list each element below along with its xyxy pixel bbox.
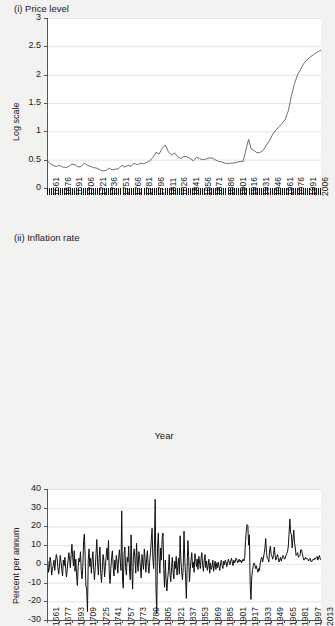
x-tick-label: 1886	[226, 177, 236, 196]
y-tick-mark	[44, 18, 47, 19]
x-tick-label: 1961	[285, 177, 295, 196]
price-level-plot-area	[47, 18, 321, 188]
x-tick-label: 1773	[138, 607, 148, 626]
x-tick-label: 1661	[51, 177, 61, 196]
x-tick-label: 1933	[263, 607, 273, 626]
y-tick-mark	[44, 545, 47, 546]
y-tick-mark	[44, 508, 47, 509]
y-tick-mark	[44, 103, 47, 104]
x-tick-mark	[47, 620, 48, 623]
x-tick-label: 1751	[121, 177, 131, 196]
x-tick-label: 1709	[88, 607, 98, 626]
inflation-rate-panel: (ii) Inflation rate Percent per annum -3…	[0, 228, 328, 447]
y-tick-mark	[44, 564, 47, 565]
price-level-gridlines	[47, 19, 321, 189]
price-level-chart-svg	[47, 18, 321, 188]
inflation-rate-line-series	[47, 499, 321, 613]
y-tick-mark	[44, 160, 47, 161]
x-tick-label: 1901	[238, 607, 248, 626]
x-tick-label: 1885	[225, 607, 235, 626]
y-tick-mark	[44, 131, 47, 132]
inflation-rate-x-axis-title: Year	[0, 430, 328, 441]
price-level-panel: (i) Price level Log scale 00.511.522.53 …	[0, 0, 328, 228]
y-tick-label: -20	[8, 595, 41, 605]
y-tick-label: 1	[8, 125, 41, 135]
x-tick-label: 1853	[200, 607, 210, 626]
x-tick-label: 1946	[273, 177, 283, 196]
inflation-rate-title: (ii) Inflation rate	[14, 232, 79, 243]
y-tick-mark	[44, 46, 47, 47]
x-tick-label: 1841	[191, 177, 201, 196]
x-tick-label: 1917	[250, 607, 260, 626]
x-tick-label: 1869	[213, 607, 223, 626]
x-tick-label: 1805	[163, 607, 173, 626]
x-tick-label: 1949	[275, 607, 285, 626]
y-tick-label: 40	[8, 483, 41, 493]
x-tick-label: 1736	[109, 177, 119, 196]
inflation-rate-y-axis-line	[47, 489, 48, 621]
x-tick-label: 1677	[63, 607, 73, 626]
y-tick-label: 30	[8, 502, 41, 512]
x-tick-label: 1811	[168, 178, 178, 196]
x-tick-label: 1981	[300, 607, 310, 626]
y-tick-label: 2	[8, 69, 41, 79]
y-tick-label: 0	[8, 558, 41, 568]
y-tick-label: 2.5	[8, 40, 41, 50]
y-tick-mark	[44, 526, 47, 527]
price-level-line-series	[47, 50, 321, 171]
x-tick-label: 1721	[98, 177, 108, 196]
x-tick-label: 1931	[261, 177, 271, 196]
x-tick-label: 1691	[74, 177, 84, 196]
x-tick-label: 1766	[133, 177, 143, 196]
y-tick-mark	[44, 601, 47, 602]
y-tick-mark	[44, 489, 47, 490]
y-tick-label: 3	[8, 12, 41, 22]
x-tick-label: 2013	[325, 607, 335, 626]
y-tick-label: -10	[8, 577, 41, 587]
x-tick-label: 1741	[113, 607, 123, 626]
x-tick-label: 1976	[296, 177, 306, 196]
x-tick-label: 1965	[288, 607, 298, 626]
y-tick-label: -30	[8, 614, 41, 624]
price-level-y-axis-line	[47, 18, 48, 189]
x-tick-label: 1706	[86, 177, 96, 196]
x-tick-label: 1997	[313, 607, 323, 626]
x-tick-label: 1871	[214, 177, 224, 196]
x-tick-label: 1901	[238, 177, 248, 196]
x-tick-label: 1725	[101, 607, 111, 626]
x-tick-label: 1661	[51, 607, 61, 626]
x-tick-label: 1856	[203, 177, 213, 196]
x-tick-label: 1789	[151, 607, 161, 626]
y-tick-label: 1.5	[8, 97, 41, 107]
inflation-rate-chart-svg	[47, 489, 321, 620]
x-tick-label: 1796	[156, 177, 166, 196]
x-tick-label: 1826	[179, 177, 189, 196]
y-tick-label: 0	[8, 182, 41, 192]
x-tick-label: 2006	[320, 177, 330, 196]
inflation-rate-plot-area	[47, 489, 321, 620]
y-tick-mark	[44, 583, 47, 584]
y-tick-mark	[44, 75, 47, 76]
x-tick-label: 1837	[188, 607, 198, 626]
y-tick-label: 0.5	[8, 154, 41, 164]
x-tick-label: 1693	[76, 607, 86, 626]
x-tick-label: 1916	[249, 177, 259, 196]
y-tick-label: 20	[8, 520, 41, 530]
x-tick-label: 1991	[308, 177, 318, 196]
x-tick-label: 1821	[176, 607, 186, 626]
x-tick-label: 1757	[126, 607, 136, 626]
y-tick-label: 10	[8, 539, 41, 549]
x-tick-label: 1676	[63, 177, 73, 196]
x-tick-label: 1781	[144, 177, 154, 196]
